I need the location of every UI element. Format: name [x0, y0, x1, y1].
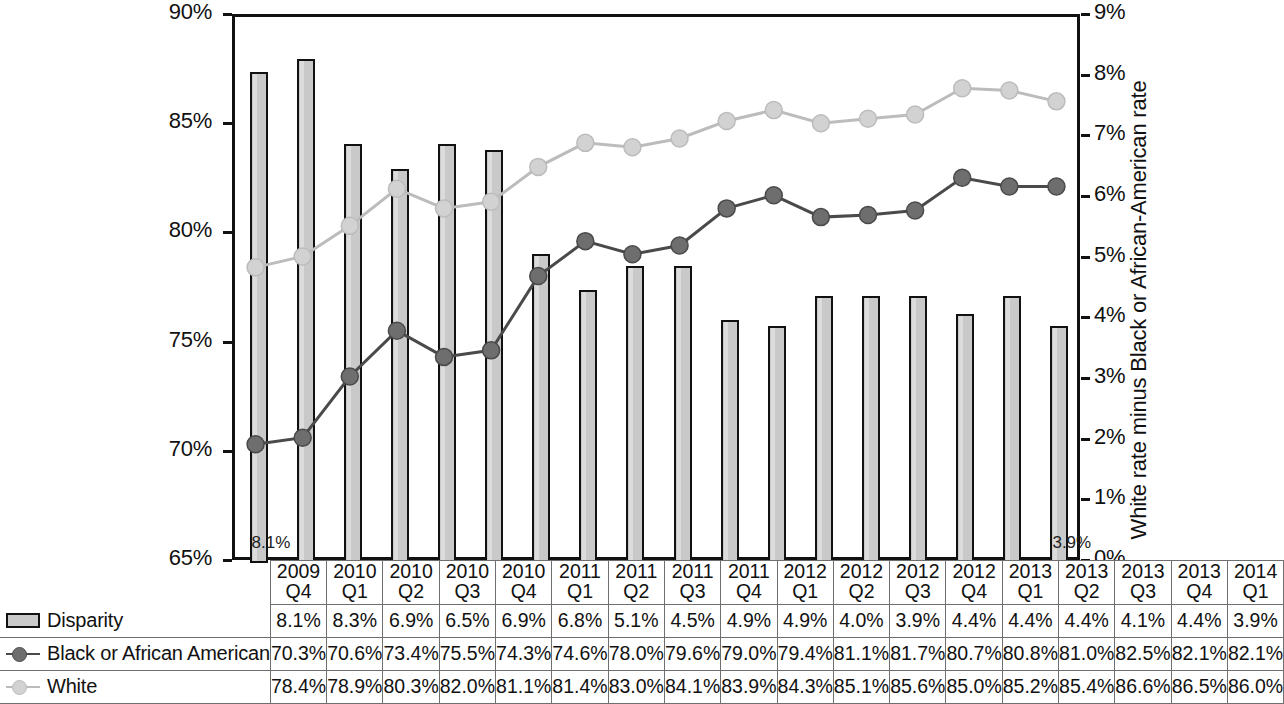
table-cell: 81.1% — [833, 637, 889, 670]
marker-point: 79.6% — [577, 233, 594, 250]
marker-point: 78.9% — [294, 248, 311, 265]
marker-point: 84.1% — [577, 134, 594, 151]
header-quarter: Q2 — [1059, 582, 1114, 602]
marker-point: 82.1% — [1048, 178, 1065, 195]
header-quarter: Q3 — [665, 582, 720, 602]
legend-item-disparity: Disparity — [0, 604, 270, 637]
table-row: Black or African American70.3%70.6%73.4%… — [0, 637, 1284, 670]
header-quarter: Q3 — [440, 582, 495, 602]
header-quarter: Q1 — [778, 582, 833, 602]
table-cell: 4.9% — [721, 604, 777, 637]
table-column-header: 2011Q3 — [664, 561, 720, 605]
table-cell: 84.1% — [664, 670, 720, 703]
table-cell: 75.5% — [439, 637, 495, 670]
marker-point: 85.1% — [718, 113, 735, 130]
legend-label: Disparity — [47, 609, 123, 632]
marker-point: 81.7% — [765, 187, 782, 204]
table-cell: 80.7% — [946, 637, 1002, 670]
marker-point: 84.3% — [671, 130, 688, 147]
header-year: 2014 — [1228, 562, 1283, 582]
table-cell: 3.9% — [890, 604, 946, 637]
table-cell: 85.2% — [1002, 670, 1058, 703]
marker-point: 80.7% — [812, 209, 829, 226]
header-year: 2010 — [383, 562, 438, 582]
left-axis-tick-mark — [223, 13, 232, 16]
table-cell: 82.1% — [1171, 637, 1227, 670]
table-header-row: 2009Q42010Q12010Q22010Q32010Q42011Q12011… — [0, 561, 1284, 605]
table-cell: 85.6% — [890, 670, 946, 703]
table-cell: 6.9% — [496, 604, 552, 637]
left-axis-tick-mark — [223, 450, 232, 453]
table-cell: 3.9% — [1227, 604, 1283, 637]
header-quarter: Q1 — [552, 582, 607, 602]
marker-point: 81.4% — [483, 193, 500, 210]
left-axis-tick-label: 90% — [126, 0, 212, 25]
table-cell: 6.5% — [439, 604, 495, 637]
legend-item-white: White — [0, 670, 270, 703]
line-white — [256, 88, 1057, 267]
right-axis-tick-mark — [1081, 316, 1090, 319]
table-cell: 81.0% — [1059, 637, 1115, 670]
table-cell: 74.3% — [496, 637, 552, 670]
table-column-header: 2011Q2 — [608, 561, 664, 605]
table-cell: 80.3% — [383, 670, 439, 703]
table-cell: 78.4% — [270, 670, 326, 703]
table-cell: 4.4% — [1059, 604, 1115, 637]
table-column-header: 2012Q4 — [946, 561, 1002, 605]
header-quarter: Q4 — [271, 582, 326, 602]
header-year: 2013 — [1115, 562, 1170, 582]
marker-point: 81.0% — [907, 202, 924, 219]
right-y-axis-title: White rate minus Black or African-Americ… — [1126, 50, 1152, 570]
table-column-header: 2010Q3 — [439, 561, 495, 605]
header-quarter: Q2 — [834, 582, 889, 602]
header-quarter: Q4 — [946, 582, 1001, 602]
table-cell: 80.8% — [1002, 637, 1058, 670]
marker-point: 82.5% — [954, 169, 971, 186]
legend-dot-icon — [12, 680, 27, 695]
header-quarter: Q2 — [383, 582, 438, 602]
table-cell: 78.9% — [327, 670, 383, 703]
table-column-header: 2013Q1 — [1002, 561, 1058, 605]
marker-point: 80.8% — [860, 206, 877, 223]
marker-point: 73.4% — [341, 368, 358, 385]
table-cell: 86.0% — [1227, 670, 1283, 703]
table-cell: 73.4% — [383, 637, 439, 670]
marker-point: 79.0% — [624, 246, 641, 263]
table-cell: 85.1% — [833, 670, 889, 703]
header-quarter: Q4 — [721, 582, 776, 602]
header-year: 2013 — [1172, 562, 1227, 582]
header-year: 2011 — [665, 562, 720, 582]
marker-point: 85.4% — [907, 106, 924, 123]
header-year: 2012 — [890, 562, 945, 582]
plot-value-annotation: 3.9% — [1052, 533, 1091, 553]
table-cell: 86.6% — [1115, 670, 1171, 703]
table-row: White78.4%78.9%80.3%82.0%81.1%81.4%83.0%… — [0, 670, 1284, 703]
table-cell: 4.0% — [833, 604, 889, 637]
table-column-header: 2011Q4 — [721, 561, 777, 605]
table-cell: 5.1% — [608, 604, 664, 637]
table-cell: 4.4% — [946, 604, 1002, 637]
legend-line-dot-icon — [6, 679, 40, 695]
table-header-corner — [0, 561, 270, 605]
table-column-header: 2009Q4 — [270, 561, 326, 605]
table-column-header: 2013Q3 — [1115, 561, 1171, 605]
table-column-header: 2010Q4 — [496, 561, 552, 605]
marker-point: 82.0% — [388, 180, 405, 197]
header-year: 2012 — [834, 562, 889, 582]
table-cell: 8.1% — [270, 604, 326, 637]
legend-line-dot-icon — [6, 646, 40, 662]
right-axis-tick-mark — [1081, 74, 1090, 77]
marker-point: 86.6% — [954, 80, 971, 97]
table-cell: 82.0% — [439, 670, 495, 703]
table-column-header: 2010Q2 — [383, 561, 439, 605]
header-quarter: Q2 — [609, 582, 664, 602]
left-axis-tick-mark — [223, 231, 232, 234]
table-cell: 86.5% — [1171, 670, 1227, 703]
header-quarter: Q1 — [1003, 582, 1058, 602]
legend-label: White — [47, 675, 97, 698]
right-axis-tick-mark — [1081, 13, 1090, 16]
table-cell: 79.4% — [777, 637, 833, 670]
left-axis-tick-label: 70% — [126, 436, 212, 462]
header-year: 2009 — [271, 562, 326, 582]
